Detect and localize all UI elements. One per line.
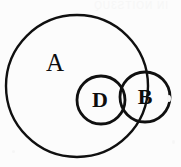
- set-label-b: B: [132, 86, 157, 108]
- set-label-a: A: [41, 50, 70, 75]
- set-label-d: D: [87, 89, 112, 111]
- venn-diagram-canvas: [0, 0, 181, 167]
- set-circle-a: [6, 15, 148, 157]
- venn-diagram-figure: IN NOITS3UQ A D B: [0, 0, 181, 167]
